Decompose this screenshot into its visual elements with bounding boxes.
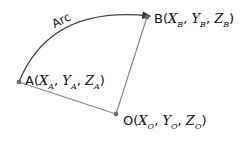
label-point-o: O(XO, YO, ZO): [123, 114, 207, 131]
o-z: Z: [186, 113, 195, 128]
o-z-sub: O: [195, 122, 202, 131]
b-z: Z: [214, 11, 223, 26]
point-o: [114, 112, 119, 117]
arc-label: Arc: [49, 10, 73, 31]
o-y: Y: [162, 113, 171, 128]
b-x-sub: B: [177, 20, 183, 29]
point-a: [17, 80, 22, 85]
point-b: [145, 15, 150, 20]
o-y-sub: O: [171, 122, 178, 131]
point-a-name: A: [25, 73, 34, 88]
b-z-sub: B: [223, 20, 229, 29]
a-z: Z: [85, 73, 94, 88]
a-y: Y: [62, 73, 71, 88]
b-y-sub: B: [200, 20, 206, 29]
a-x-sub: A: [48, 82, 54, 91]
arc-curve: [19, 15, 150, 82]
b-y: Y: [191, 11, 200, 26]
a-z-sub: A: [94, 82, 100, 91]
point-o-name: O: [123, 113, 133, 128]
point-b-name: B: [154, 11, 163, 26]
a-x: X: [39, 73, 48, 88]
a-y-sub: A: [71, 82, 77, 91]
o-x-sub: O: [148, 122, 155, 131]
o-x: X: [138, 113, 147, 128]
label-point-a: A(XA, YA, ZA): [25, 74, 105, 91]
b-x: X: [168, 11, 177, 26]
line-o-b: [116, 17, 147, 114]
label-point-b: B(XB, YB, ZB): [154, 12, 234, 29]
